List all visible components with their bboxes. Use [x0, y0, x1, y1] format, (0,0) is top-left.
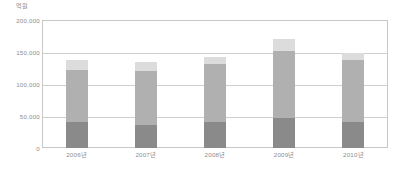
bar-segment: [66, 60, 88, 70]
bar-segment: [135, 125, 157, 148]
bar-segment: [204, 64, 226, 122]
x-axis-tick-label: 2010년: [343, 150, 364, 159]
y-axis-tick-label: 50,000: [2, 113, 40, 120]
x-axis-tick-label: 2009년: [274, 150, 295, 159]
bar-group: [66, 60, 88, 148]
bar-segment: [273, 51, 295, 118]
y-axis-tick-label: 200,000: [2, 17, 40, 24]
bar-group: [204, 57, 226, 148]
bar-segment: [66, 70, 88, 122]
bar-segment: [66, 122, 88, 148]
bar-segment: [135, 71, 157, 125]
bar-group: [273, 39, 295, 148]
bar-segment: [342, 53, 364, 60]
bars-layer: [42, 20, 388, 148]
bar-segment: [342, 122, 364, 148]
bar-group: [342, 53, 364, 148]
bar-group: [135, 62, 157, 148]
bar-segment: [204, 57, 226, 64]
y-axis-tick-label: 0: [2, 145, 40, 152]
bar-segment: [204, 122, 226, 148]
bar-segment: [273, 39, 295, 51]
bar-segment: [273, 118, 295, 148]
bar-segment: [135, 62, 157, 72]
y-axis-tick-label: 150,000: [2, 49, 40, 56]
bar-segment: [342, 60, 364, 122]
x-axis-tick-label: 2008년: [205, 150, 226, 159]
x-axis-tick-label: 2007년: [135, 150, 156, 159]
chart-figure: 억원 200,000150,000100,00050,0000 2006년200…: [0, 0, 396, 173]
x-axis-tick-labels: 2006년2007년2008년2009년2010년: [42, 150, 388, 164]
x-axis-tick-label: 2006년: [66, 150, 87, 159]
y-axis-tick-label: 100,000: [2, 81, 40, 88]
y-axis-tick-labels: 200,000150,000100,00050,0000: [0, 20, 40, 148]
y-axis-unit-label: 억원: [16, 1, 29, 10]
